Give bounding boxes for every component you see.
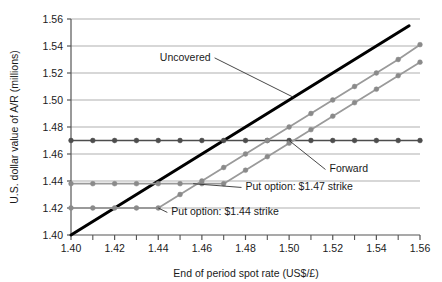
data-point <box>418 42 423 47</box>
y-tick-label-4: 1.48 <box>43 121 64 133</box>
data-point <box>330 98 335 103</box>
leader-line-forward <box>289 141 325 170</box>
x-axis-title: End of period spot rate (US$/£) <box>173 267 318 279</box>
data-point <box>352 138 357 143</box>
data-point <box>374 71 379 76</box>
x-tick-label-4: 1.48 <box>235 242 256 254</box>
x-tick-label-2: 1.44 <box>148 242 169 254</box>
chart-figure: UncoveredForwardPut option: $1.47 strike… <box>0 0 442 282</box>
data-point <box>178 192 183 197</box>
x-tick-label-0: 1.40 <box>61 242 82 254</box>
x-axis-ticks <box>71 235 420 240</box>
data-point <box>418 138 423 143</box>
data-point <box>156 181 161 186</box>
y-tick-label-0: 1.40 <box>43 229 64 241</box>
x-tick-label-3: 1.46 <box>192 242 213 254</box>
data-point <box>265 154 270 159</box>
data-point <box>69 181 74 186</box>
data-point <box>134 181 139 186</box>
data-point <box>396 57 401 62</box>
y-tick-label-1: 1.42 <box>43 202 64 214</box>
x-tick-label-6: 1.52 <box>323 242 344 254</box>
x-tick-label-8: 1.56 <box>410 242 431 254</box>
data-point <box>112 206 117 211</box>
data-point <box>221 138 226 143</box>
data-point <box>178 138 183 143</box>
y-tick-label-3: 1.46 <box>43 148 64 160</box>
data-point <box>352 84 357 89</box>
data-point <box>69 206 74 211</box>
y-tick-label-8: 1.56 <box>43 13 64 25</box>
y-tick-label-7: 1.54 <box>43 40 64 52</box>
x-tick-label-7: 1.54 <box>366 242 387 254</box>
x-tick-label-5: 1.50 <box>279 242 300 254</box>
data-point <box>221 165 226 170</box>
data-point <box>330 138 335 143</box>
annotation-forward: Forward <box>329 162 368 174</box>
data-point <box>374 138 379 143</box>
data-point <box>199 138 204 143</box>
data-series-group <box>69 26 423 235</box>
annotation-put-144: Put option: $1.44 strike <box>171 205 279 217</box>
data-point <box>309 127 314 132</box>
data-point <box>396 73 401 78</box>
annotation-uncovered: Uncovered <box>160 51 211 63</box>
data-point <box>112 181 117 186</box>
data-point <box>134 206 139 211</box>
x-tick-label-1: 1.42 <box>104 242 125 254</box>
y-axis-tick-labels: 1.401.421.441.461.481.501.521.541.56 <box>43 13 64 241</box>
data-point <box>396 138 401 143</box>
data-point <box>243 138 248 143</box>
data-point <box>330 114 335 119</box>
data-point <box>374 87 379 92</box>
data-point <box>309 111 314 116</box>
data-point <box>134 138 139 143</box>
data-point <box>90 206 95 211</box>
data-point <box>112 138 117 143</box>
data-point <box>221 181 226 186</box>
leader-line-uncovered <box>215 58 294 97</box>
x-axis-tick-labels: 1.401.421.441.461.481.501.521.541.56 <box>61 242 431 254</box>
annotation-put-147: Put option: $1.47 strike <box>246 180 354 192</box>
annotation-labels: UncoveredForwardPut option: $1.47 strike… <box>160 51 368 218</box>
data-point <box>287 125 292 130</box>
data-point <box>69 138 74 143</box>
data-point <box>418 60 423 65</box>
series-0 <box>71 26 409 235</box>
y-tick-label-2: 1.44 <box>43 175 64 187</box>
data-point <box>265 138 270 143</box>
data-point <box>243 152 248 157</box>
data-point <box>178 181 183 186</box>
data-point <box>309 138 314 143</box>
data-point <box>156 138 161 143</box>
data-point <box>199 179 204 184</box>
data-point <box>352 100 357 105</box>
chart-canvas: UncoveredForwardPut option: $1.47 strike… <box>0 0 442 282</box>
series-line-0 <box>71 26 409 235</box>
data-point <box>90 138 95 143</box>
y-tick-label-5: 1.50 <box>43 94 64 106</box>
y-axis-title: U.S. dollar value of A/R (millions) <box>8 50 20 203</box>
y-tick-label-6: 1.52 <box>43 67 64 79</box>
data-point <box>243 168 248 173</box>
series-2 <box>69 60 423 186</box>
data-point <box>90 181 95 186</box>
series-1 <box>69 138 423 143</box>
